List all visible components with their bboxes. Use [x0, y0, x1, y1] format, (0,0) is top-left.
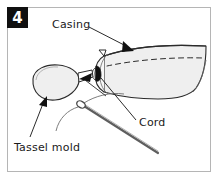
figure-panel: Casing Cord Tassel mold 4 — [0, 0, 223, 179]
label-casing: Casing — [52, 18, 90, 31]
step-badge: 4 — [7, 7, 28, 28]
casing-body — [104, 45, 206, 99]
step-illustration: Casing Cord Tassel mold 4 — [0, 0, 223, 179]
label-tassel-mold: Tassel mold — [13, 141, 80, 154]
step-badge-number: 4 — [12, 9, 22, 27]
label-cord: Cord — [139, 116, 166, 129]
